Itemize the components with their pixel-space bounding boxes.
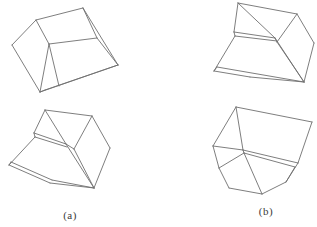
label-a: (a) bbox=[40, 209, 100, 221]
crystal-b-upper-drawing bbox=[214, 3, 314, 82]
crystal-diagram-canvas bbox=[0, 0, 317, 227]
crystal-a-lower-drawing bbox=[9, 110, 110, 188]
crystal-habit-figure: (a) (b) bbox=[0, 0, 317, 227]
label-b: (b) bbox=[236, 205, 296, 217]
crystal-a-upper-drawing bbox=[12, 8, 118, 92]
crystal-b-lower-drawing bbox=[213, 107, 312, 194]
